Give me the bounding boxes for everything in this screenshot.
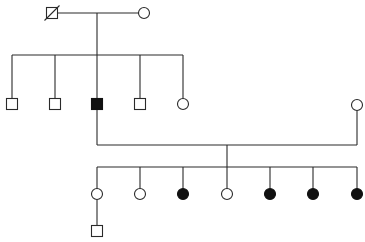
unaffected-female-symbol — [222, 189, 233, 200]
unaffected-male-symbol — [92, 226, 103, 237]
affected-female-symbol — [178, 189, 189, 200]
affected-female-symbol — [308, 189, 319, 200]
pedigree-symbols — [7, 6, 363, 237]
unaffected-female-symbol — [135, 189, 146, 200]
unaffected-male-symbol — [7, 99, 18, 110]
unaffected-male-symbol — [135, 99, 146, 110]
unaffected-female-symbol — [139, 8, 150, 19]
unaffected-female-symbol — [352, 100, 363, 111]
unaffected-female-symbol — [92, 189, 103, 200]
affected-female-symbol — [265, 189, 276, 200]
unaffected-male-symbol — [50, 99, 61, 110]
affected-male-symbol — [92, 99, 103, 110]
pedigree-chart — [0, 0, 365, 242]
affected-female-symbol — [352, 189, 363, 200]
unaffected-female-symbol — [178, 99, 189, 110]
